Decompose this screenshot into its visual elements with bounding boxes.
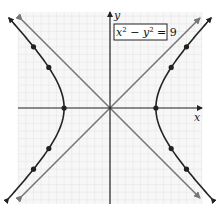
x-axis-label: x bbox=[194, 111, 201, 124]
equation-label: x2 − y2 = 9 bbox=[114, 24, 177, 40]
data-point bbox=[46, 65, 51, 70]
data-point bbox=[62, 105, 67, 110]
data-point bbox=[169, 146, 174, 151]
data-point bbox=[184, 44, 189, 49]
data-point bbox=[46, 146, 51, 151]
data-point bbox=[184, 167, 189, 172]
data-point bbox=[169, 65, 174, 70]
data-point bbox=[153, 105, 158, 110]
data-point bbox=[31, 44, 36, 49]
y-axis-label: y bbox=[113, 9, 121, 22]
hyperbola-plot: x y x2 − y2 = 9 bbox=[0, 0, 220, 213]
data-point bbox=[31, 167, 36, 172]
